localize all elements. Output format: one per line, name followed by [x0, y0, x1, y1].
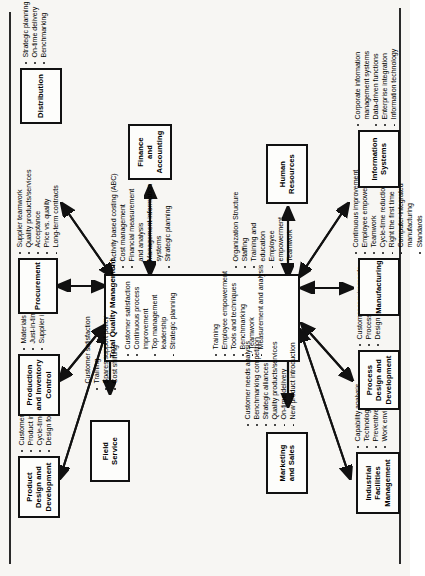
bullet-item: Corporate information: [354, 49, 363, 126]
node-distribution[interactable]: Distribution: [20, 68, 62, 124]
node-field-service[interactable]: FieldService: [90, 420, 130, 482]
bullet-item: Standards: [416, 170, 425, 254]
bullet-item: Activity based costing (ABC): [110, 173, 119, 268]
bullet-item: Continuous process: [133, 276, 142, 356]
bullet-item: Training: [212, 274, 221, 356]
node-label: FinanceandAccounting: [136, 131, 164, 174]
bullet-item: Cost management: [119, 173, 128, 268]
node-label: InformationSystems: [370, 138, 389, 181]
bullets-finance-accounting: Activity based costing (ABC)Cost managem…: [110, 173, 174, 268]
bullet-item: Cost shifting: [111, 316, 120, 390]
bullet-item: manufacturing: [406, 170, 415, 254]
bullet-item: Benchmarking competition: [253, 337, 262, 426]
bullet-item: systems: [155, 173, 164, 268]
bullet-item: Data-driven functions: [372, 49, 381, 126]
node-procurement[interactable]: Procurement: [18, 258, 58, 314]
bullet-item: Strategic planning: [22, 2, 31, 64]
node-label: FieldService: [101, 437, 120, 465]
bullet-item: Training: [93, 316, 102, 390]
node-label: ProcessDesign andDevelopment: [365, 356, 393, 405]
bullet-item: Staffing: [241, 192, 250, 268]
node-label: Manufacturing: [374, 260, 383, 314]
bullet-item: education: [259, 192, 268, 268]
bullet-item: On-time delivery: [31, 2, 40, 64]
node-label: IndustrialFacilitiesManagement: [364, 459, 392, 506]
bullet-item: Information technology: [390, 49, 399, 126]
bullet-item: Organization Structure: [232, 192, 241, 268]
bullet-item: Customer needs analysis: [244, 337, 253, 426]
bullet-item: Enterprise integration: [381, 49, 390, 126]
bullet-item: Employee: [268, 192, 277, 268]
bullet-item: New product introduction: [289, 337, 298, 426]
node-label: Distribution: [36, 74, 45, 118]
node-industrial-facilities[interactable]: IndustrialFacilitiesManagement: [356, 452, 400, 514]
node-finance-accounting[interactable]: FinanceandAccounting: [128, 124, 172, 180]
bullet-item: improvement: [142, 276, 151, 356]
bullet-item: Strategic planning: [164, 173, 173, 268]
bullet-item: Teamwork: [286, 192, 295, 268]
bullet-item: On-time delivery: [280, 337, 289, 426]
node-label: Productionand InventoryControl: [25, 359, 53, 410]
node-manufacturing[interactable]: Manufacturing: [358, 258, 400, 316]
bullet-item: Training and: [250, 192, 259, 268]
bullet-item: Spares support policy: [102, 316, 111, 390]
node-product-design[interactable]: ProductDesign andDevelopment: [18, 456, 60, 518]
bullet-item: Quality products/services: [271, 337, 280, 426]
node-label: Marketingand Sales: [278, 445, 297, 482]
bullet-item: leadership: [160, 276, 169, 356]
bullet-item: Employee empowerment: [221, 274, 230, 356]
bullet-item: Top management: [151, 276, 160, 356]
node-information-systems[interactable]: InformationSystems: [358, 130, 400, 188]
bullet-item: Customer satisfaction: [124, 276, 133, 356]
node-label: ProductDesign andDevelopment: [25, 463, 53, 512]
bullets-marketing-sales: Customer needs analysisBenchmarking comp…: [244, 337, 298, 426]
bullets-field-service: Customer satisfactionTrainingSpares supp…: [84, 316, 120, 390]
node-marketing-sales[interactable]: Marketingand Sales: [266, 432, 308, 494]
bullet-item: Strategic alliances: [262, 337, 271, 426]
bullets-human-resources: Organization StructureStaffingTraining a…: [232, 192, 296, 268]
bullets-distribution: Strategic planningOn-time deliveryBenchm…: [22, 2, 49, 64]
node-label: HumanResources: [278, 154, 297, 194]
bullets-procurement: Supplier teamworkQuality products/servic…: [16, 170, 61, 255]
bullet-item: Supplier teamwork: [16, 170, 25, 255]
bullet-item: Price vs. quality: [43, 170, 52, 255]
bullet-item: management systems: [363, 49, 372, 126]
node-production-inventory[interactable]: Productionand InventoryControl: [18, 354, 60, 416]
bullet-item: Management information: [146, 173, 155, 268]
tqm-bullets-left: Customer satisfactionContinuous processi…: [124, 276, 178, 356]
node-label: Procurement: [33, 262, 42, 310]
bullet-item: Acceptance: [34, 170, 43, 255]
bullet-item: and analysis: [137, 173, 146, 268]
bullet-item: Financial measurement: [128, 173, 137, 268]
bullet-item: Customer satisfaction: [84, 316, 93, 390]
bullets-information-systems: Corporate informationmanagement systemsD…: [354, 49, 399, 126]
bullet-item: Tools and techniques: [230, 274, 239, 356]
bullet-item: Quality products/services: [25, 170, 34, 255]
bullet-item: Long-term contracts: [52, 170, 61, 255]
bullet-item: Benchmarking: [40, 2, 49, 64]
bullet-item: Strategic planning: [169, 276, 178, 356]
bullet-item: empowerment: [277, 192, 286, 268]
node-process-design[interactable]: ProcessDesign andDevelopment: [358, 350, 400, 410]
